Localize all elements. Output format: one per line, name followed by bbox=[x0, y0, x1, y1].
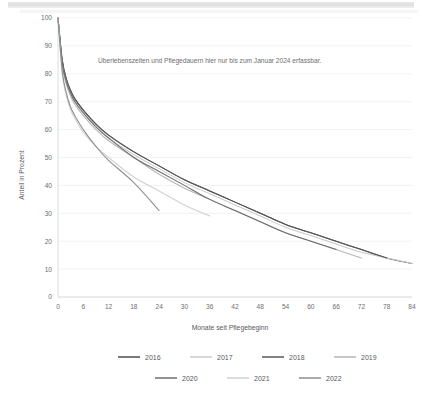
x-axis-tick-label: 18 bbox=[130, 303, 138, 310]
legend-label-2017: 2017 bbox=[217, 354, 233, 361]
y-axis-tick-label: 70 bbox=[45, 98, 53, 105]
legend-item-2021[interactable]: 2021 bbox=[227, 375, 270, 382]
annotation-label: Überlebenszeiten und Pflegedauern hier n… bbox=[98, 57, 321, 65]
y-axis-tick-label: 60 bbox=[45, 126, 53, 133]
y-axis-tick-label: 40 bbox=[45, 182, 53, 189]
y-axis-tick-label: 100 bbox=[41, 14, 52, 21]
series-line-2022 bbox=[58, 18, 159, 211]
chart-canvas: 0102030405060708090100 06121824303642485… bbox=[0, 0, 422, 394]
legend-label-2021: 2021 bbox=[254, 375, 270, 382]
y-axis-tick-label: 90 bbox=[45, 42, 53, 49]
y-axis-tick-label: 0 bbox=[48, 293, 52, 300]
series-line-2018 bbox=[58, 18, 387, 258]
legend-item-2018[interactable]: 2018 bbox=[262, 354, 305, 361]
x-axis-tick-label: 78 bbox=[383, 303, 391, 310]
x-axis-tick-label: 36 bbox=[206, 303, 214, 310]
y-axis-tick-labels: 0102030405060708090100 bbox=[41, 14, 52, 300]
y-axis-tick-label: 20 bbox=[45, 238, 53, 245]
x-axis-tick-label: 42 bbox=[231, 303, 239, 310]
x-axis-tick-labels: 0612182430364248546066727884 bbox=[56, 303, 416, 310]
legend-label-2019: 2019 bbox=[361, 354, 377, 361]
legend-label-2018: 2018 bbox=[289, 354, 305, 361]
y-axis-tick-label: 10 bbox=[45, 266, 53, 273]
x-axis-tick-label: 72 bbox=[358, 303, 366, 310]
x-axis-title: Monate seit Pflegebeginn bbox=[192, 324, 269, 332]
legend-item-2020[interactable]: 2020 bbox=[155, 375, 198, 382]
legend-label-2016: 2016 bbox=[145, 354, 161, 361]
x-axis-tick-label: 60 bbox=[307, 303, 315, 310]
data-series-lines bbox=[58, 18, 412, 264]
legend-label-2020: 2020 bbox=[182, 375, 198, 382]
chart-legend: 2016201720182019202020212022 bbox=[118, 354, 377, 382]
y-axis-title: Anteil in Prozent bbox=[18, 150, 25, 200]
x-axis-tick-label: 66 bbox=[332, 303, 340, 310]
x-axis-tick-label: 54 bbox=[282, 303, 290, 310]
chart-annotation: Überlebenszeiten und Pflegedauern hier n… bbox=[98, 57, 321, 65]
x-axis-tick-label: 12 bbox=[105, 303, 113, 310]
survival-curve-chart: 0102030405060708090100 06121824303642485… bbox=[0, 0, 422, 394]
legend-item-2019[interactable]: 2019 bbox=[334, 354, 377, 361]
y-axis-tick-label: 30 bbox=[45, 210, 53, 217]
x-axis-tick-label: 48 bbox=[257, 303, 265, 310]
y-axis-tick-label: 50 bbox=[45, 154, 53, 161]
legend-label-2022: 2022 bbox=[326, 375, 342, 382]
series-line-2017 bbox=[58, 18, 412, 264]
legend-item-2017[interactable]: 2017 bbox=[190, 354, 233, 361]
legend-item-2016[interactable]: 2016 bbox=[118, 354, 161, 361]
x-axis-tick-label: 24 bbox=[155, 303, 163, 310]
x-axis-tick-label: 6 bbox=[81, 303, 85, 310]
legend-item-2022[interactable]: 2022 bbox=[299, 375, 342, 382]
series-line-2019 bbox=[58, 18, 361, 258]
x-axis-tick-label: 0 bbox=[56, 303, 60, 310]
y-axis-tick-label: 80 bbox=[45, 70, 53, 77]
series-line-2016 bbox=[58, 18, 412, 264]
x-axis-tick-label: 30 bbox=[181, 303, 189, 310]
x-axis-tick-label: 84 bbox=[408, 303, 416, 310]
